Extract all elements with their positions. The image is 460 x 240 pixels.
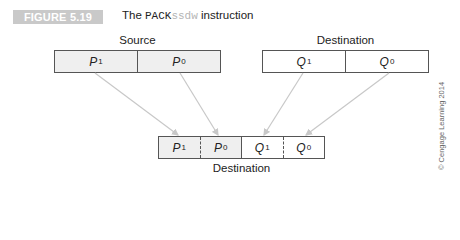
copyright-credit: © Cengage Learning 2014 [437,82,446,170]
arrow-p1 [95,73,178,135]
arrow-p0 [180,73,218,135]
result-cell-q1: Q1 [241,137,283,158]
result-cell-p0: P0 [200,137,242,158]
destination-output-label: Destination [158,162,325,174]
arrow-q0 [306,73,389,135]
result-cell-p1: P1 [159,137,200,158]
result-cell-q0: Q0 [283,137,325,158]
arrow-q1 [264,73,303,135]
destination-output-register: P1 P0 Q1 Q0 [158,136,325,159]
